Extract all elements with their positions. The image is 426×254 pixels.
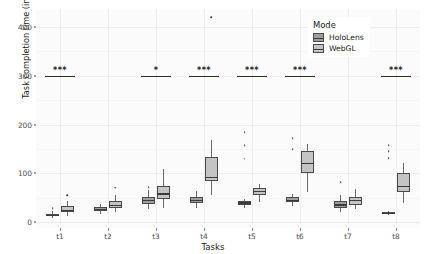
- x-axis-tick-mark: [252, 228, 253, 231]
- y-axis-title: Task completion time (in seconds): [21, 0, 31, 117]
- legend-swatch-icon: [313, 33, 324, 42]
- boxplot-median: [253, 191, 266, 192]
- x-axis-tick-label-t6: t6: [285, 232, 315, 241]
- x-axis-tick-mark: [204, 228, 205, 231]
- x-axis-tick-label-t2: t2: [93, 232, 123, 241]
- x-axis-tick-mark: [60, 228, 61, 231]
- boxplot-outlier: [52, 207, 54, 209]
- legend-item-webgl[interactable]: WebGL: [313, 44, 364, 53]
- boxplot-box-webgl-t8: [397, 173, 410, 192]
- y-axis-tick-label: 400: [2, 23, 32, 32]
- x-axis-tick-mark: [300, 228, 301, 231]
- legend-entries: HoloLensWebGL: [313, 33, 364, 53]
- gridline-horizontal-minor: [36, 100, 420, 101]
- y-axis-tick-label: 300: [2, 71, 32, 80]
- significance-bracket-t8: [381, 76, 411, 77]
- y-axis-tick-label: 0: [2, 218, 32, 227]
- significance-stars-t3: *: [154, 67, 159, 75]
- x-axis-tick-label-t3: t3: [141, 232, 171, 241]
- legend-item-label: WebGL: [329, 44, 356, 53]
- gridline-horizontal: [36, 125, 420, 126]
- legend: Mode HoloLensWebGL: [308, 17, 370, 57]
- boxplot-median: [94, 209, 107, 210]
- x-axis-tick-label-t5: t5: [237, 232, 267, 241]
- boxplot-box-webgl-t3: [157, 186, 170, 199]
- gridline-vertical: [60, 10, 61, 228]
- y-axis-tick-label: 100: [2, 169, 32, 178]
- boxplot-median: [190, 200, 203, 201]
- x-axis-tick-mark: [156, 228, 157, 231]
- gridline-vertical: [108, 10, 109, 228]
- boxplot-outlier: [292, 148, 294, 150]
- boxplot-median: [301, 163, 314, 164]
- boxplot-median: [142, 200, 155, 201]
- x-axis-tick-mark: [108, 228, 109, 231]
- boxplot-outlier: [388, 157, 390, 159]
- gridline-horizontal: [36, 222, 420, 223]
- x-axis-tick-mark: [348, 228, 349, 231]
- boxplot-outlier: [67, 194, 69, 196]
- boxplot-median: [334, 204, 347, 205]
- boxplot-outlier: [244, 131, 246, 133]
- x-axis-tick-label-t7: t7: [333, 232, 363, 241]
- significance-bracket-t5: [237, 76, 267, 77]
- gridline-horizontal: [36, 76, 420, 77]
- significance-bracket-t3: [141, 76, 171, 77]
- legend-title: Mode: [313, 20, 364, 30]
- gridline-horizontal: [36, 173, 420, 174]
- x-axis-tick-label-t8: t8: [381, 232, 411, 241]
- boxplot-median: [157, 193, 170, 194]
- gridline-vertical: [300, 10, 301, 228]
- boxplot-outlier: [115, 187, 117, 189]
- gridline-horizontal-minor: [36, 198, 420, 199]
- boxplot-median: [46, 215, 59, 216]
- boxplot-median: [61, 210, 74, 211]
- significance-stars-t4: ***: [197, 67, 211, 75]
- gridline-vertical: [396, 10, 397, 228]
- boxplot-median: [397, 186, 410, 187]
- boxplot-median: [238, 202, 251, 203]
- significance-stars-t6: ***: [293, 67, 307, 75]
- gridline-vertical: [204, 10, 205, 228]
- y-axis-tick-label: 200: [2, 120, 32, 129]
- significance-stars-t8: ***: [389, 67, 403, 75]
- boxplot-chart: Task completion time (in seconds) Tasks …: [0, 0, 426, 254]
- x-axis-tick-mark: [396, 228, 397, 231]
- legend-item-label: HoloLens: [329, 33, 364, 42]
- boxplot-outlier: [388, 150, 390, 152]
- legend-swatch-icon: [313, 44, 324, 53]
- boxplot-outlier: [292, 137, 294, 139]
- x-axis-tick-label-t1: t1: [45, 232, 75, 241]
- legend-item-hololens[interactable]: HoloLens: [313, 33, 364, 42]
- significance-bracket-t6: [285, 76, 315, 77]
- boxplot-outlier: [244, 158, 246, 160]
- boxplot-outlier: [211, 16, 213, 18]
- boxplot-outlier: [244, 144, 246, 146]
- boxplot-median: [205, 177, 218, 178]
- boxplot-outlier: [148, 186, 150, 188]
- boxplot-median: [109, 205, 122, 206]
- boxplot-median: [382, 213, 395, 214]
- significance-stars-t5: ***: [245, 67, 259, 75]
- gridline-horizontal-minor: [36, 149, 420, 150]
- x-axis-tick-label-t4: t4: [189, 232, 219, 241]
- boxplot-outlier: [388, 144, 390, 146]
- significance-stars-t1: ***: [53, 67, 67, 75]
- significance-bracket-t1: [45, 76, 75, 77]
- x-axis-title: Tasks: [0, 242, 426, 252]
- boxplot-median: [286, 200, 299, 201]
- boxplot-outlier: [340, 181, 342, 183]
- significance-bracket-t4: [189, 76, 219, 77]
- boxplot-median: [349, 200, 362, 201]
